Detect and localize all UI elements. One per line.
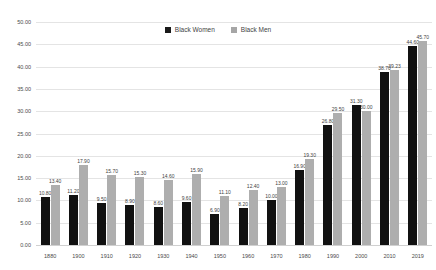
y-axis-tick-label: 20.00 — [17, 153, 31, 159]
bar-value-label: 13.40 — [49, 178, 62, 184]
bar-value-label: 8.20 — [238, 201, 248, 207]
y-axis-tick-label: 30.00 — [17, 108, 31, 114]
bar-black-men[interactable]: 30.00 — [362, 111, 371, 245]
y-axis-tick-label: 0.00 — [20, 242, 31, 248]
bar-group: 38.7039.23 — [375, 22, 403, 245]
bar-value-label: 9.60 — [182, 195, 192, 201]
x-axis-tick-label: 1920 — [121, 251, 149, 261]
x-axis-tick-label: 1960 — [234, 251, 262, 261]
x-axis-tick-label: 1940 — [177, 251, 205, 261]
bar-value-label: 6.90 — [210, 207, 220, 213]
bar-value-label: 12.40 — [247, 183, 260, 189]
bar-black-men[interactable]: 15.30 — [135, 177, 144, 245]
bar-value-label: 15.90 — [190, 167, 203, 173]
y-axis-tick-label: 15.00 — [17, 175, 31, 181]
bar-black-men[interactable]: 19.30 — [305, 159, 314, 245]
x-axis-tick-label: 1980 — [291, 251, 319, 261]
bar-group: 31.3030.00 — [347, 22, 375, 245]
x-axis: 1880190019101920193019401950196019701980… — [36, 251, 432, 261]
bar-value-label: 10.00 — [265, 193, 278, 199]
bar-black-women[interactable]: 31.30 — [352, 105, 361, 245]
y-axis-tick-label: 40.00 — [17, 64, 31, 70]
bar-black-women[interactable]: 11.20 — [69, 195, 78, 245]
gridline — [36, 245, 432, 246]
x-axis-tick-label: 2000 — [347, 251, 375, 261]
bar-black-women[interactable]: 9.50 — [97, 203, 106, 245]
bar-value-label: 15.70 — [105, 168, 118, 174]
bar-value-label: 45.70 — [417, 34, 430, 40]
bar-black-men[interactable]: 15.70 — [107, 175, 116, 245]
bar-black-women[interactable]: 10.80 — [41, 197, 50, 245]
x-axis-tick-label: 1950 — [206, 251, 234, 261]
y-axis-tick-label: 5.00 — [20, 220, 31, 226]
x-axis-tick-label: 2019 — [404, 251, 432, 261]
bar-group: 10.8013.40 — [36, 22, 64, 245]
bar-group: 44.6045.70 — [404, 22, 432, 245]
bar-value-label: 17.90 — [77, 158, 90, 164]
bar-value-label: 11.20 — [67, 188, 79, 194]
bar-group: 16.9019.30 — [291, 22, 319, 245]
bar-value-label: 8.60 — [153, 200, 163, 206]
bar-value-label: 11.10 — [219, 189, 231, 195]
y-axis-tick-label: 50.00 — [17, 19, 31, 25]
x-axis-tick-label: 1900 — [64, 251, 92, 261]
x-axis-tick-label: 1910 — [93, 251, 121, 261]
bar-group: 11.2017.90 — [64, 22, 92, 245]
bar-group: 9.5015.70 — [93, 22, 121, 245]
bar-value-label: 39.23 — [388, 63, 401, 69]
bar-value-label: 15.30 — [134, 170, 147, 176]
bar-chart: Black Women Black Men 0.005.0010.0015.00… — [0, 0, 436, 270]
bar-black-women[interactable]: 9.60 — [182, 202, 191, 245]
bar-black-women[interactable]: 44.60 — [408, 46, 417, 245]
bar-black-women[interactable]: 10.00 — [267, 200, 276, 245]
bar-group: 8.9015.30 — [121, 22, 149, 245]
bar-black-men[interactable]: 11.10 — [220, 196, 229, 246]
bar-black-men[interactable]: 39.23 — [390, 70, 399, 245]
bar-value-label: 29.50 — [332, 106, 345, 112]
bar-black-men[interactable]: 17.90 — [79, 165, 88, 245]
x-axis-tick-label: 1970 — [262, 251, 290, 261]
y-axis-tick-label: 25.00 — [17, 131, 31, 137]
bar-value-label: 14.60 — [162, 173, 175, 179]
bar-groups: 10.8013.4011.2017.909.5015.708.9015.308.… — [36, 22, 432, 245]
x-axis-tick-label: 1990 — [319, 251, 347, 261]
x-axis-tick-label: 1880 — [36, 251, 64, 261]
bar-black-women[interactable]: 8.90 — [125, 205, 134, 245]
bar-value-label: 19.30 — [303, 152, 316, 158]
y-axis-tick-label: 10.00 — [17, 197, 31, 203]
bar-value-label: 16.90 — [293, 163, 306, 169]
bar-black-women[interactable]: 16.90 — [295, 170, 304, 245]
x-axis-tick-label: 1930 — [149, 251, 177, 261]
x-axis-tick-label: 2010 — [375, 251, 403, 261]
bar-group: 8.2012.40 — [234, 22, 262, 245]
y-axis-tick-label: 45.00 — [17, 41, 31, 47]
bar-group: 6.9011.10 — [206, 22, 234, 245]
y-axis: 0.005.0010.0015.0020.0025.0030.0035.0040… — [0, 22, 34, 245]
y-axis-tick-label: 35.00 — [17, 86, 31, 92]
bar-value-label: 30.00 — [360, 104, 373, 110]
bar-black-men[interactable]: 14.60 — [164, 180, 173, 245]
bar-black-men[interactable]: 45.70 — [418, 41, 427, 245]
bar-black-men[interactable]: 15.90 — [192, 174, 201, 245]
bar-black-men[interactable]: 12.40 — [249, 190, 258, 245]
bar-black-women[interactable]: 38.70 — [380, 72, 389, 245]
bar-value-label: 10.80 — [39, 190, 52, 196]
bar-value-label: 13.00 — [275, 180, 288, 186]
bar-black-men[interactable]: 29.50 — [333, 113, 342, 245]
bar-value-label: 9.50 — [97, 196, 107, 202]
bar-black-women[interactable]: 26.80 — [323, 125, 332, 245]
bar-black-men[interactable]: 13.40 — [51, 185, 60, 245]
bar-black-men[interactable]: 13.00 — [277, 187, 286, 245]
bar-black-women[interactable]: 8.20 — [239, 208, 248, 245]
bar-value-label: 8.90 — [125, 198, 135, 204]
bar-black-women[interactable]: 8.60 — [154, 207, 163, 245]
bar-group: 9.6015.90 — [177, 22, 205, 245]
plot-area: 10.8013.4011.2017.909.5015.708.9015.308.… — [36, 22, 432, 245]
bar-group: 10.0013.00 — [262, 22, 290, 245]
bar-group: 26.8029.50 — [319, 22, 347, 245]
bar-value-label: 26.80 — [322, 118, 335, 124]
bar-group: 8.6014.60 — [149, 22, 177, 245]
bar-black-women[interactable]: 6.90 — [210, 214, 219, 245]
